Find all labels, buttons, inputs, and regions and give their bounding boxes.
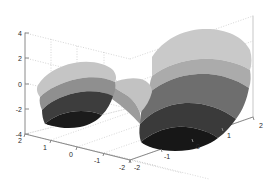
- y-tick-label: 2: [18, 137, 22, 144]
- surface-plot: 4 2 0 -2 -4: [0, 0, 275, 194]
- y-tick-label: -2: [119, 164, 125, 171]
- y-axis-ticks: [24, 134, 130, 163]
- y-tick-label: 0: [69, 151, 73, 158]
- x-tick-label: -2: [134, 164, 140, 171]
- y-axis-line: [25, 134, 130, 160]
- z-tick-label: 0: [18, 81, 22, 88]
- x-tick-label: 1: [227, 132, 231, 139]
- z-tick-label: -2: [16, 106, 22, 113]
- z-tick-label: 4: [18, 30, 22, 37]
- z-axis-ticks: [25, 33, 29, 134]
- y-tick-label: 1: [43, 144, 47, 151]
- figure-canvas: 4 2 0 -2 -4: [0, 0, 275, 194]
- z-axis-tick-labels: 4 2 0 -2 -4: [16, 30, 22, 138]
- surface-lobe-large: [139, 29, 251, 151]
- x-tick-label: 0: [196, 143, 200, 150]
- x-tick-label: -1: [164, 153, 170, 160]
- x-tick-label: 2: [259, 122, 263, 129]
- y-tick-label: -1: [94, 157, 100, 164]
- surface-lobe-small: [37, 62, 116, 128]
- z-tick-label: 2: [18, 55, 22, 62]
